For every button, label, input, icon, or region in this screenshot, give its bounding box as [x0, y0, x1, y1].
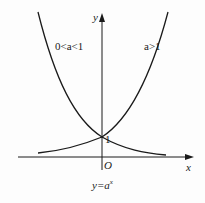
y-axis-arrow-icon — [99, 13, 105, 22]
y-intercept-label: 1 — [105, 133, 111, 145]
caption-base: y=a — [92, 179, 110, 191]
caption-exponent: x — [110, 178, 113, 186]
graph-svg — [0, 0, 205, 203]
curve-label-increasing: a>1 — [144, 40, 161, 52]
x-axis-label: x — [186, 161, 191, 173]
curve-increasing — [38, 12, 168, 153]
origin-label: O — [104, 159, 112, 171]
function-caption: y=ax — [92, 178, 113, 191]
exponential-function-diagram: y x O 1 0<a<1 a>1 y=ax — [0, 0, 205, 203]
y-axis-label: y — [93, 11, 98, 23]
curve-label-decreasing: 0<a<1 — [55, 40, 83, 52]
x-axis-arrow-icon — [185, 154, 194, 160]
